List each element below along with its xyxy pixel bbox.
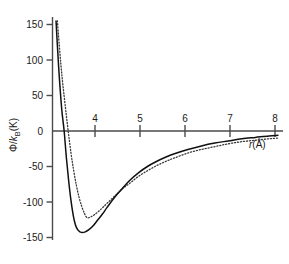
x-tick-label-7: 7 [227, 113, 233, 124]
x-tick-label-6: 6 [182, 113, 188, 124]
y-tick-label-150: 150 [26, 19, 43, 30]
y-tick-label-50: 50 [32, 90, 44, 101]
y-axis-title-unit: (K) [8, 118, 19, 131]
x-tick-label-5: 5 [137, 113, 143, 124]
potential-curve-dotted [57, 21, 278, 218]
potential-curve-solid [56, 21, 278, 233]
y-tick-label-neg100: -100 [23, 197, 43, 208]
figure-canvas: 150 100 50 0 -50 -100 -150 4 5 6 7 8 [0, 0, 289, 264]
y-axis-title-phi: Φ/ [8, 141, 19, 152]
potential-energy-chart: 150 100 50 0 -50 -100 -150 4 5 6 7 8 [0, 0, 289, 264]
y-tick-label-0: 0 [37, 126, 43, 137]
y-tick-label-neg150: -150 [23, 232, 43, 243]
y-axis-tick-labels: 150 100 50 0 -50 -100 -150 [23, 19, 43, 243]
x-axis-title: r(Å) [249, 138, 266, 150]
svg-text:Φ/kB(K): Φ/kB(K) [8, 118, 22, 152]
x-tick-label-4: 4 [92, 113, 98, 124]
y-tick-label-100: 100 [26, 55, 43, 66]
y-axis-title: Φ/kB(K) [8, 118, 22, 152]
x-tick-label-8: 8 [272, 113, 278, 124]
y-tick-label-neg50: -50 [29, 161, 44, 172]
svg-text:r(Å): r(Å) [249, 138, 266, 150]
y-axis-ticks [47, 25, 53, 238]
x-axis-tick-labels: 4 5 6 7 8 [92, 113, 278, 124]
